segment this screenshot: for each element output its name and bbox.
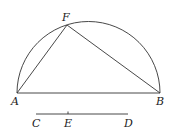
geometry-diagram: F A B C E D [0,0,176,140]
semicircle-arc [17,21,160,93]
label-C: C [32,117,41,130]
chord-AF [17,25,67,93]
label-F: F [61,11,70,24]
label-E: E [63,117,72,130]
label-D: D [123,117,133,130]
chord-FB [67,25,160,93]
label-B: B [155,95,164,108]
label-A: A [10,95,19,108]
